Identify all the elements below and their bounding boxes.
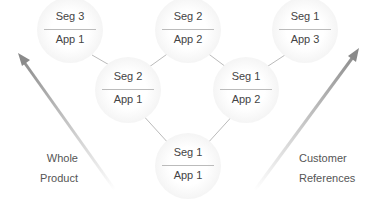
node-seg-label: Seg 1	[272, 10, 338, 22]
node-seg-label: Seg 1	[155, 146, 221, 158]
left-label-line1: Whole	[40, 148, 78, 168]
node-app-label: App 1	[37, 33, 103, 45]
node-divider	[220, 89, 272, 90]
node-app-label: App 2	[213, 93, 279, 105]
right-label-line1: Customer	[299, 148, 355, 168]
node-seg-label: Seg 3	[37, 10, 103, 22]
node-seg3-app1: Seg 3 App 1	[37, 0, 103, 63]
customer-references-label: Customer References	[299, 148, 355, 188]
node-seg-label: Seg 2	[155, 10, 221, 22]
node-seg-label: Seg 2	[95, 70, 161, 82]
node-app-label: App 1	[155, 169, 221, 181]
node-seg1-app2: Seg 1 App 2	[213, 57, 279, 123]
node-divider	[162, 29, 214, 30]
left-label-line2: Product	[32, 168, 78, 188]
node-divider	[162, 165, 214, 166]
node-seg2-app2: Seg 2 App 2	[155, 0, 221, 63]
node-seg-label: Seg 1	[213, 70, 279, 82]
node-seg1-app3: Seg 1 App 3	[272, 0, 338, 63]
node-app-label: App 2	[155, 33, 221, 45]
node-seg1-app1: Seg 1 App 1	[155, 133, 221, 199]
node-divider	[44, 29, 96, 30]
right-label-line2: References	[299, 168, 355, 188]
node-divider	[102, 89, 154, 90]
node-app-label: App 1	[95, 93, 161, 105]
node-app-label: App 3	[272, 33, 338, 45]
node-seg2-app1: Seg 2 App 1	[95, 57, 161, 123]
node-divider	[279, 29, 331, 30]
whole-product-label: Whole Product	[40, 148, 78, 188]
